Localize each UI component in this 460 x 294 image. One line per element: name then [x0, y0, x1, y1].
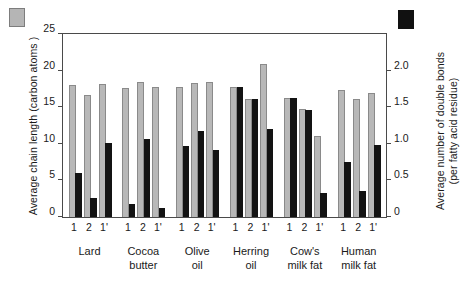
x-category-label-line: Olive — [185, 245, 210, 259]
bar-double-bonds — [75, 173, 82, 217]
x-position-label: 2 — [248, 221, 254, 233]
right-axis-tick — [386, 216, 391, 217]
x-category-label-line: oil — [233, 259, 269, 273]
x-position-label: 2 — [140, 221, 146, 233]
bar-double-bonds — [105, 143, 112, 217]
x-category-label: Cow'smilk fat — [287, 245, 322, 272]
bar-double-bonds — [305, 110, 312, 217]
x-position-label: 1 — [125, 221, 131, 233]
plot-area: 051015202500.51.01.52.0 — [62, 33, 387, 218]
x-position-label: 1 — [71, 221, 77, 233]
bar-double-bonds — [359, 191, 366, 217]
x-position-label: 1' — [262, 221, 270, 233]
x-category-label: Cocoabutter — [127, 245, 159, 272]
x-category-label-line: butter — [127, 259, 159, 273]
x-axis-position-labels: 121'121'121'121'121'121' — [62, 221, 387, 241]
x-position-label: 1' — [315, 221, 323, 233]
x-position-label: 1' — [100, 221, 108, 233]
x-category-label-line: oil — [185, 259, 210, 273]
bar-double-bonds — [90, 198, 97, 217]
x-position-label: 1' — [369, 221, 377, 233]
x-position-label: 2 — [355, 221, 361, 233]
x-category-label-line: Herring — [233, 245, 269, 259]
x-position-label: 1' — [154, 221, 162, 233]
x-category-label: Herringoil — [233, 245, 269, 272]
x-position-label: 2 — [86, 221, 92, 233]
x-position-label: 2 — [301, 221, 307, 233]
bar-double-bonds — [320, 193, 327, 217]
right-axis-tick-label: 0 — [394, 205, 400, 217]
x-position-label: 1' — [208, 221, 216, 233]
x-position-label: 2 — [194, 221, 200, 233]
left-axis-tick-label: 25 — [43, 22, 55, 34]
x-category-label-line: Lard — [78, 245, 100, 259]
right-axis-tick — [386, 70, 391, 71]
bar-double-bonds — [290, 98, 297, 217]
bar-double-bonds — [129, 204, 136, 217]
left-axis-tick — [58, 216, 63, 217]
bar-double-bonds — [144, 139, 151, 217]
right-axis-tick — [386, 179, 391, 180]
right-axis-title-line2: (per fatty acid residue) — [447, 36, 460, 226]
x-category-label: Humanmilk fat — [341, 245, 376, 272]
bar-double-bonds — [213, 150, 220, 217]
bar-double-bonds — [183, 146, 190, 217]
x-position-label: 1 — [286, 221, 292, 233]
right-axis-tick — [386, 143, 391, 144]
x-category-label-line: Cocoa — [127, 245, 159, 259]
bar-double-bonds — [159, 208, 166, 217]
right-axis-title: Average number of double bonds (per fatt… — [434, 36, 460, 226]
left-axis-tick — [58, 106, 63, 107]
left-axis-tick — [58, 33, 63, 34]
right-axis-tick-label: 1.5 — [394, 95, 409, 107]
x-position-label: 1 — [233, 221, 239, 233]
bar-double-bonds — [344, 162, 351, 217]
left-axis-tick — [58, 179, 63, 180]
left-axis-tick-label: 10 — [43, 132, 55, 144]
x-category-label: Lard — [78, 245, 100, 259]
bar-double-bonds — [198, 131, 205, 217]
bar-double-bonds — [374, 145, 381, 217]
right-axis-tick-label: 1.0 — [394, 132, 409, 144]
bar-double-bonds — [252, 99, 259, 217]
x-position-label: 1 — [179, 221, 185, 233]
left-axis-tick — [58, 143, 63, 144]
left-axis-tick-label: 5 — [49, 168, 55, 180]
x-category-label-line: milk fat — [341, 259, 376, 273]
x-category-label: Oliveoil — [185, 245, 210, 272]
right-axis-tick-label: 0.5 — [394, 168, 409, 180]
x-category-label-line: Human — [341, 245, 376, 259]
x-axis-category-labels: LardCocoabutterOliveoilHerringoilCow'smi… — [62, 245, 387, 289]
bar-double-bonds — [237, 87, 244, 217]
right-axis-tick — [386, 106, 391, 107]
left-axis-tick-label: 15 — [43, 95, 55, 107]
left-axis-tick-label: 20 — [43, 59, 55, 71]
bar-double-bonds — [267, 129, 274, 217]
left-axis-title: Average chain length (carbon atoms ) — [27, 31, 39, 221]
right-axis-title-line1: Average number of double bonds — [434, 52, 446, 210]
x-category-label-line: milk fat — [287, 259, 322, 273]
gray-bar-legend-swatch — [9, 8, 25, 27]
x-category-label-line: Cow's — [287, 245, 322, 259]
bar-chain-length — [122, 88, 129, 217]
left-axis-tick — [58, 70, 63, 71]
right-axis-tick-label: 2.0 — [394, 59, 409, 71]
black-bar-legend-swatch — [398, 10, 414, 29]
plot-inner: 051015202500.51.01.52.0 — [63, 34, 386, 217]
left-axis-tick-label: 0 — [49, 205, 55, 217]
x-position-label: 1 — [340, 221, 346, 233]
bar-chain-length — [152, 87, 159, 217]
